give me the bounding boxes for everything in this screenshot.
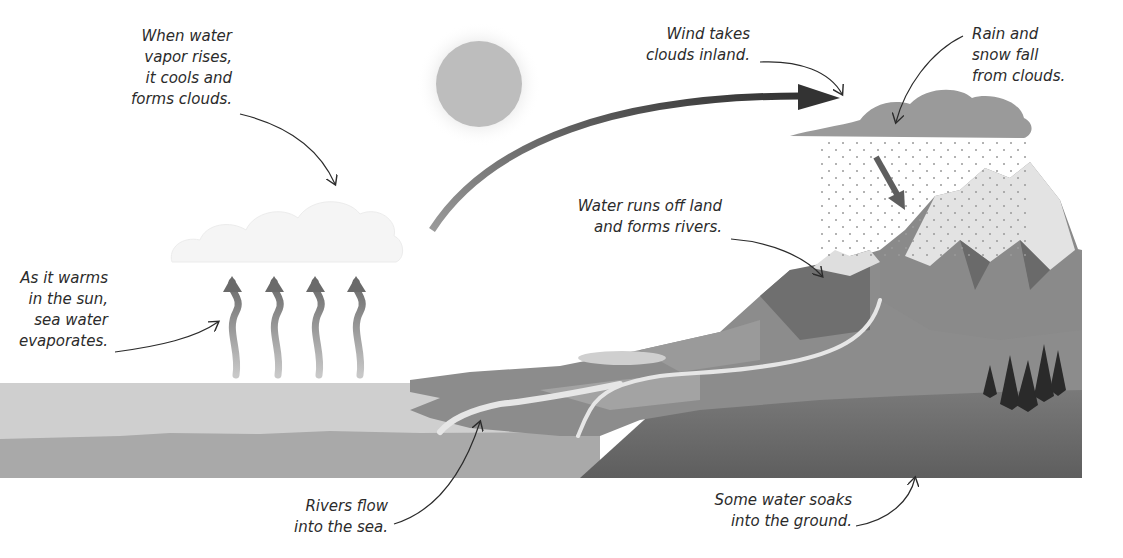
vapor-cloud [171, 202, 402, 262]
condensation-pointer [240, 114, 335, 184]
label-condensation: When water vapor rises, it cools and for… [96, 26, 232, 110]
evaporation-arrowheads [223, 276, 366, 292]
label-evaporation: As it warms in the sun, sea water evapor… [0, 268, 108, 352]
label-infiltration: Some water soaks into the ground. [640, 490, 852, 532]
label-runoff: Water runs off land and forms rivers. [520, 196, 722, 238]
evaporation-arrows [231, 282, 362, 375]
rain-cloud [790, 90, 1032, 258]
label-rivers-to-sea: Rivers flow into the sea. [240, 496, 388, 538]
label-precipitation: Rain and snow fall from clouds. [972, 24, 1122, 87]
label-wind: Wind takes clouds inland. [600, 24, 750, 66]
sun-icon [417, 22, 541, 146]
lake [578, 351, 666, 365]
evaporation-pointer [115, 322, 218, 352]
infiltration-pointer [856, 478, 915, 526]
